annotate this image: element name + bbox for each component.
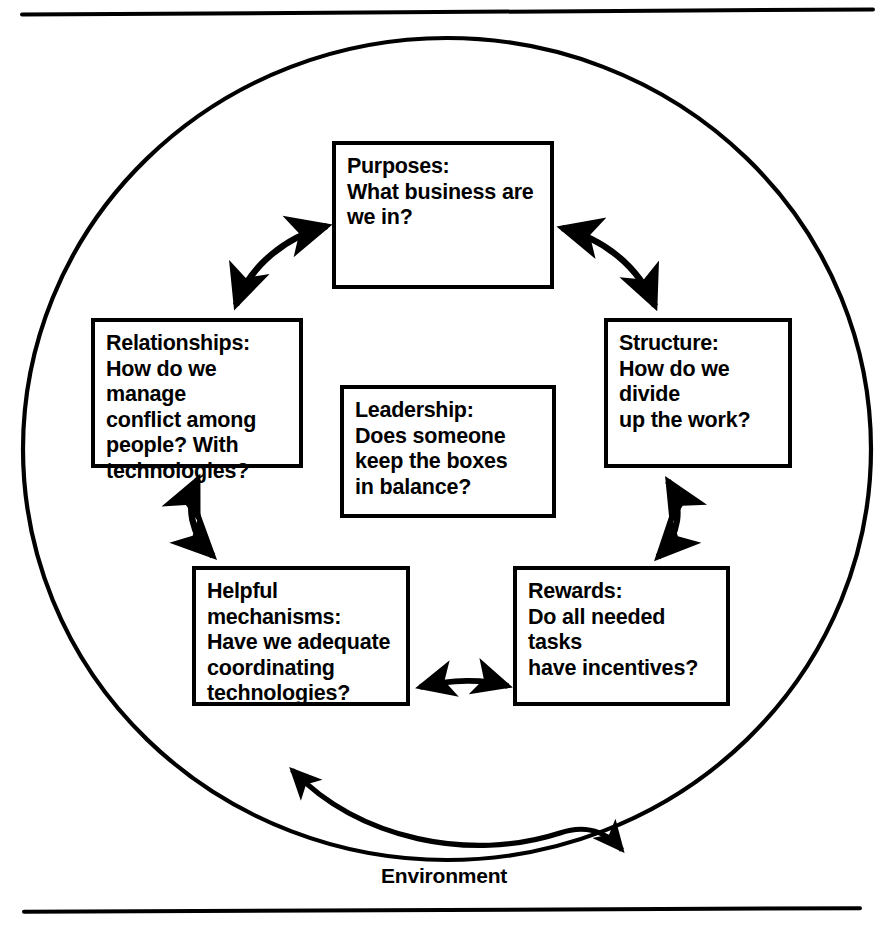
box-purposes[interactable]: Purposes: What business are we in?	[332, 141, 554, 289]
box-rewards-heading: Rewards:	[528, 579, 717, 605]
connector-relationships-purposes	[236, 226, 327, 305]
connector-structure-rewards	[658, 481, 677, 557]
box-rewards-body: Do all needed tasks have incentives?	[528, 605, 717, 682]
connector-helpful-relationships	[191, 479, 213, 556]
box-relationships-body: How do we manage conflict among people? …	[106, 357, 290, 485]
connector-purposes-structure	[562, 228, 655, 306]
diagram-page: Purposes: What business are we in? Relat…	[0, 0, 893, 938]
box-purposes-body: What business are we in?	[347, 180, 541, 231]
box-helpful-mechanisms-heading: Helpful mechanisms:	[207, 579, 397, 630]
connector-rewards-helpful	[420, 681, 508, 687]
box-purposes-heading: Purposes:	[347, 154, 541, 180]
box-relationships[interactable]: Relationships: How do we manage conflict…	[91, 318, 303, 468]
box-leadership[interactable]: Leadership: Does someone keep the boxes …	[340, 385, 556, 518]
box-structure-body: How do we divide up the work?	[619, 357, 779, 434]
box-leadership-body: Does someone keep the boxes in balance?	[355, 424, 543, 501]
box-helpful-mechanisms-body: Have we adequate coordinating technologi…	[207, 630, 397, 707]
box-structure-heading: Structure:	[619, 331, 779, 357]
box-structure[interactable]: Structure: How do we divide up the work?	[604, 318, 792, 468]
box-helpful-mechanisms[interactable]: Helpful mechanisms: Have we adequate coo…	[192, 566, 410, 706]
box-relationships-heading: Relationships:	[106, 331, 290, 357]
box-rewards[interactable]: Rewards: Do all needed tasks have incent…	[513, 566, 730, 706]
connector-environment-exchange	[292, 770, 622, 850]
box-leadership-heading: Leadership:	[355, 398, 543, 424]
environment-label: Environment	[381, 864, 507, 888]
